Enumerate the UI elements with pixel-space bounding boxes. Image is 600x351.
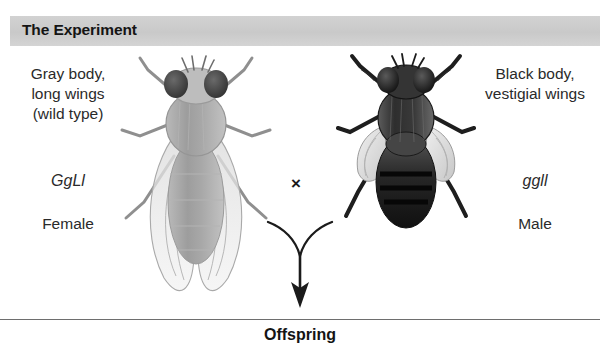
male-phenotype-line-2: vestigial wings — [472, 84, 598, 104]
experiment-figure: The Experiment Gray body, long wings (wi… — [0, 0, 600, 351]
female-sex-label: Female — [8, 215, 128, 233]
male-parent-phenotype: Black body, vestigial wings — [472, 64, 598, 104]
female-phenotype-line-2: long wings — [8, 84, 128, 104]
y-shaped-cross-arrow — [262, 218, 338, 310]
male-genotype: ggll — [472, 172, 598, 190]
offspring-label: Offspring — [0, 326, 600, 344]
compound-eye-left — [377, 67, 399, 93]
female-parent-phenotype: Gray body, long wings (wild type) — [8, 64, 128, 124]
compound-eye-left — [164, 70, 188, 98]
female-phenotype-line-1: Gray body, — [8, 64, 128, 84]
vestigial-mutant-fly-illustration — [336, 52, 476, 258]
female-genotype: GgLl — [8, 172, 128, 190]
page-title: The Experiment — [22, 21, 137, 39]
female-phenotype-line-3: (wild type) — [8, 104, 128, 124]
wild-type-fly-illustration — [118, 52, 274, 310]
compound-eye-right — [204, 70, 228, 98]
male-phenotype-line-1: Black body, — [472, 64, 598, 84]
offspring-divider — [0, 319, 600, 320]
compound-eye-right — [413, 67, 435, 93]
male-sex-label: Male — [472, 215, 598, 233]
cross-multiplication-symbol: × — [283, 174, 309, 194]
